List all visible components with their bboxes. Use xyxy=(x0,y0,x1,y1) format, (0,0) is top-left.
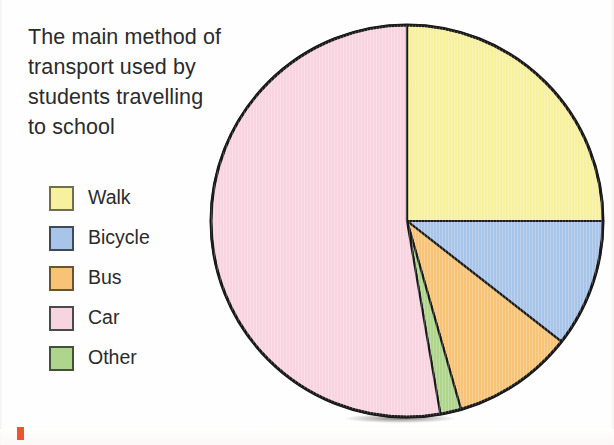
legend-swatch-bus xyxy=(49,266,74,291)
legend-swatch-walk xyxy=(49,186,74,211)
scan-edge-left xyxy=(0,0,3,445)
legend-item-walk: Walk xyxy=(49,178,150,218)
legend-label-walk: Walk xyxy=(88,188,131,208)
legend-item-bus: Bus xyxy=(49,258,150,298)
legend-item-car: Car xyxy=(49,298,150,338)
legend-label-bicycle: Bicycle xyxy=(88,228,150,248)
legend-swatch-other xyxy=(49,346,74,371)
legend-label-other: Other xyxy=(88,348,137,368)
legend-swatch-car xyxy=(49,306,74,331)
scan-speck-mark xyxy=(17,427,24,440)
pie-chart-figure: The main method of transport used by stu… xyxy=(0,0,614,445)
legend-item-bicycle: Bicycle xyxy=(49,218,150,258)
legend-swatch-bicycle xyxy=(49,226,74,251)
chart-legend: Walk Bicycle Bus Car Other xyxy=(49,178,150,378)
legend-label-car: Car xyxy=(88,308,119,328)
pie-scan-texture xyxy=(211,25,603,417)
legend-label-bus: Bus xyxy=(88,268,122,288)
legend-item-other: Other xyxy=(49,338,150,378)
scan-edge-right xyxy=(610,0,614,445)
pie-chart-graphic xyxy=(205,18,609,422)
scan-edge-bottom xyxy=(0,429,614,445)
